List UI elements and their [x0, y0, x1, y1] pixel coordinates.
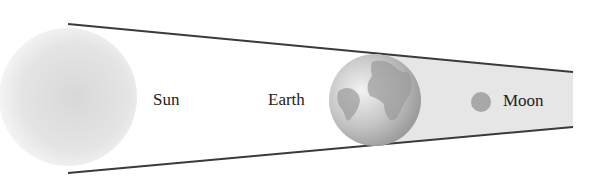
earth	[329, 54, 421, 146]
moon	[471, 92, 491, 112]
sun	[0, 28, 137, 166]
upper-tangent-line	[68, 24, 573, 72]
lunar-eclipse-diagram: Sun Earth Moon	[0, 0, 591, 186]
sun-label: Sun	[153, 90, 179, 110]
moon-label: Moon	[503, 91, 544, 111]
earth-label: Earth	[268, 90, 305, 110]
lower-tangent-line	[68, 127, 573, 173]
